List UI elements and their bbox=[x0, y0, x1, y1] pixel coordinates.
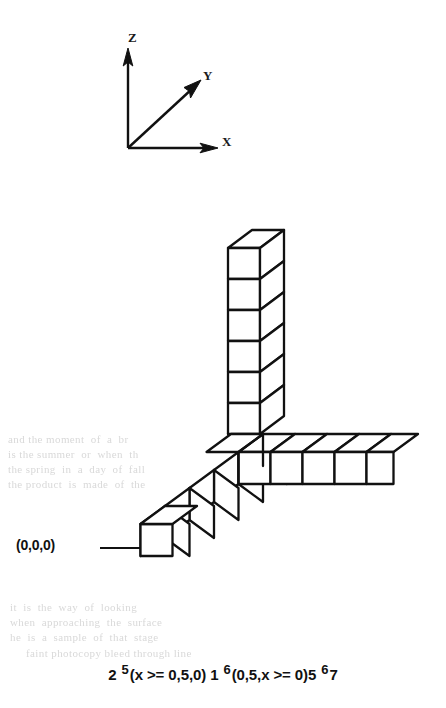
caption-num1: 2 bbox=[108, 666, 116, 683]
x-cube-1-front bbox=[239, 452, 271, 484]
caption-sup2: 6 bbox=[223, 662, 232, 677]
y-axis-line bbox=[128, 88, 193, 148]
origin-coordinate-label: (0,0,0) bbox=[16, 537, 55, 553]
z-cube-6-front bbox=[228, 248, 260, 279]
z-cube-5-front bbox=[228, 279, 260, 310]
y-axis-label: Y bbox=[203, 68, 212, 84]
z-cube-3-front bbox=[228, 341, 260, 372]
arm-x bbox=[239, 434, 419, 484]
x-cube-4-front bbox=[335, 452, 367, 484]
caption-sup1: 5 bbox=[121, 662, 130, 677]
x-cube-5-front bbox=[367, 452, 394, 484]
z-cube-2-front bbox=[228, 372, 260, 403]
axis-triad bbox=[123, 48, 218, 153]
z-cube-4-front bbox=[228, 310, 260, 341]
arm-z bbox=[228, 230, 284, 452]
z-cube-1-front bbox=[228, 403, 260, 434]
figure-caption: 2 5(x >= 0,5,0) 1 6(0,5,x >= 0)5 67 bbox=[0, 666, 446, 683]
x-cube-2-front bbox=[271, 452, 303, 484]
caption-expr2: (0,5,x >= 0) bbox=[232, 666, 308, 683]
y-arm-end-face bbox=[141, 524, 173, 556]
caption-num3: 5 bbox=[308, 666, 316, 683]
cube-structure bbox=[141, 230, 419, 556]
z-axis-label: Z bbox=[128, 30, 137, 46]
caption-expr1: (x >= 0,5,0) bbox=[130, 666, 206, 683]
x-cube-3-front bbox=[303, 452, 335, 484]
bleed-through-text-lower: it is the way of looking when approachin… bbox=[10, 600, 162, 645]
caption-num4: 7 bbox=[329, 666, 337, 683]
bleed-through-text-caption-area: faint photocopy bleed through line bbox=[26, 646, 192, 661]
x-axis-label: X bbox=[222, 134, 231, 150]
caption-num2: 1 bbox=[210, 666, 218, 683]
bleed-through-text-left: and the moment of a br is the summer or … bbox=[8, 432, 146, 492]
